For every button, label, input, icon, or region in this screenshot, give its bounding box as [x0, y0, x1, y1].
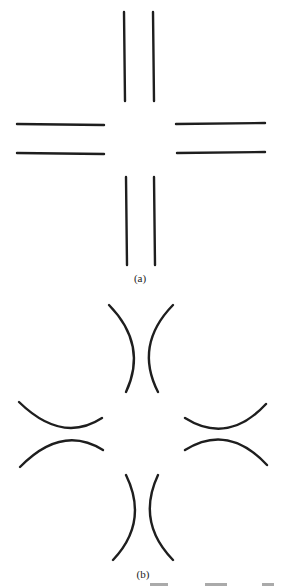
- left-upper-arc: [19, 402, 102, 428]
- bottom-left-arc: [113, 475, 135, 560]
- figure-canvas: [0, 0, 283, 586]
- bottom-right-vertical-line: [154, 177, 155, 265]
- bottom-left-vertical-line: [126, 177, 127, 265]
- left-lower-horizontal-line: [17, 153, 104, 154]
- bottom-right-arc: [150, 475, 173, 560]
- top-right-arc: [149, 305, 173, 392]
- right-lower-arc: [185, 439, 267, 465]
- top-left-vertical-line: [124, 12, 125, 101]
- top-right-vertical-line: [153, 12, 154, 101]
- panel-b-caption: (b): [137, 568, 150, 580]
- panel-a-caption: (a): [134, 272, 146, 284]
- top-left-arc: [109, 305, 134, 392]
- left-upper-horizontal-line: [17, 124, 104, 125]
- panel-b-curved-arcs: [19, 305, 267, 560]
- right-upper-horizontal-line: [176, 123, 265, 124]
- right-lower-horizontal-line: [177, 152, 265, 153]
- panel-a-straight-lines: [17, 12, 265, 265]
- right-upper-arc: [185, 404, 266, 429]
- left-lower-arc: [20, 440, 103, 467]
